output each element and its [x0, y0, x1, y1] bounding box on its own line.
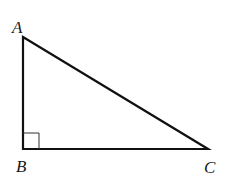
triangle-abc: [23, 37, 208, 149]
triangle-figure: A B C: [0, 0, 228, 182]
vertex-label-c: C: [204, 158, 216, 177]
vertex-label-a: A: [11, 18, 23, 37]
vertex-label-b: B: [16, 157, 27, 176]
diagram-canvas: A B C: [0, 0, 228, 182]
right-angle-marker: [23, 133, 39, 149]
